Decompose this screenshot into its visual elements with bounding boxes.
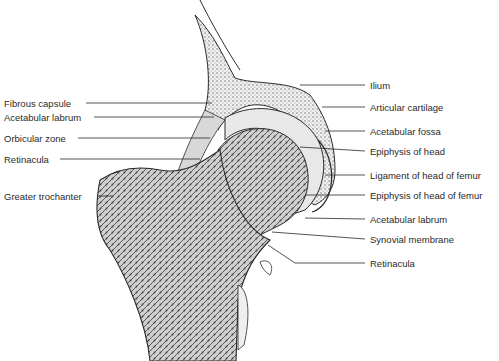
label-ilium: Ilium	[370, 80, 390, 91]
label-retinacula-left: Retinacula	[4, 154, 49, 165]
label-retinacula-right: Retinacula	[370, 258, 415, 269]
label-epiphysis-of-head-of-femur: Epiphysis of head of femur	[370, 190, 482, 201]
label-orbicular-zone: Orbicular zone	[4, 133, 66, 144]
label-articular-cartilage: Articular cartilage	[370, 102, 443, 113]
label-fibrous-capsule: Fibrous capsule	[4, 98, 71, 109]
label-greater-trochanter: Greater trochanter	[4, 191, 82, 202]
label-epiphysis-of-head: Epiphysis of head	[370, 146, 445, 157]
label-acetabular-labrum-right: Acetabular labrum	[370, 214, 447, 225]
label-acetabular-labrum-left: Acetabular labrum	[4, 112, 81, 123]
label-ligament-of-head-of-femur: Ligament of head of femur	[370, 170, 481, 181]
label-synovial-membrane: Synovial membrane	[370, 234, 454, 245]
label-acetabular-fossa: Acetabular fossa	[370, 126, 441, 137]
